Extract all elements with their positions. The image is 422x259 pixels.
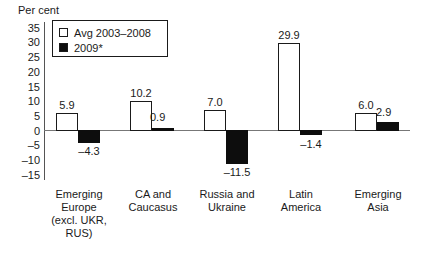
bar-2009-ca-caucasus <box>152 128 174 131</box>
y-tick-15: 15 <box>14 82 40 93</box>
bar-avg-latin-america <box>278 43 300 131</box>
bar-avg-emerging-asia <box>355 113 377 131</box>
bar-avg-emerging-europe <box>56 113 78 131</box>
legend: Avg 2003–2008 2009* <box>52 20 168 57</box>
bar-value-2009-latin-america: –1.4 <box>291 138 331 150</box>
y-axis-tick-labels: 35 30 25 20 15 10 5 0 –5 –10 –15 <box>12 0 40 259</box>
y-tick-5: 5 <box>14 111 40 122</box>
bar-value-2009-ca-caucasus: 0.9 <box>150 111 190 123</box>
bar-value-2009-emerging-europe: –4.3 <box>69 145 109 157</box>
x-category-label-latin-america: Latin America <box>260 188 342 214</box>
x-category-label-russia-ukraine: Russia and Ukraine <box>186 188 268 214</box>
y-tick-25: 25 <box>14 52 40 63</box>
y-tick-0: 0 <box>14 126 40 137</box>
legend-swatch-white-icon <box>59 28 68 37</box>
bar-value-avg-russia-ukraine: 7.0 <box>195 96 235 108</box>
bar-chart: Per cent 35 30 25 20 15 10 5 0 –5 –10 –1… <box>0 0 422 259</box>
bar-2009-russia-ukraine <box>226 130 248 164</box>
legend-item-2009: 2009* <box>59 40 103 55</box>
legend-label-avg: Avg 2003–2008 <box>74 27 151 39</box>
y-tick-neg5: –5 <box>14 140 40 151</box>
bar-avg-ca-caucasus <box>130 101 152 131</box>
bar-avg-russia-ukraine <box>204 110 226 131</box>
x-category-label-emerging-asia: Emerging Asia <box>337 188 419 214</box>
legend-item-avg: Avg 2003–2008 <box>59 25 151 40</box>
bar-2009-emerging-europe <box>78 130 100 143</box>
y-tick-35: 35 <box>14 23 40 34</box>
y-tick-30: 30 <box>14 37 40 48</box>
y-tick-20: 20 <box>14 67 40 78</box>
y-axis-line <box>44 22 45 180</box>
y-tick-neg10: –10 <box>14 155 40 166</box>
bar-value-2009-russia-ukraine: –11.5 <box>217 166 257 178</box>
bar-2009-emerging-asia <box>377 122 399 131</box>
bar-2009-latin-america <box>300 130 322 135</box>
bar-value-2009-emerging-asia: 2.9 <box>376 106 416 118</box>
y-tick-neg15: –15 <box>14 170 40 181</box>
bar-value-avg-latin-america: 29.9 <box>269 29 309 41</box>
bar-value-avg-ca-caucasus: 10.2 <box>121 87 161 99</box>
legend-swatch-black-icon <box>59 43 68 52</box>
legend-label-2009: 2009* <box>74 42 103 54</box>
x-category-label-emerging-europe: Emerging Europe (excl. UKR, RUS) <box>38 188 120 240</box>
x-category-label-ca-caucasus: CA and Caucasus <box>112 188 194 214</box>
y-tick-10: 10 <box>14 96 40 107</box>
bar-value-avg-emerging-europe: 5.9 <box>47 99 87 111</box>
